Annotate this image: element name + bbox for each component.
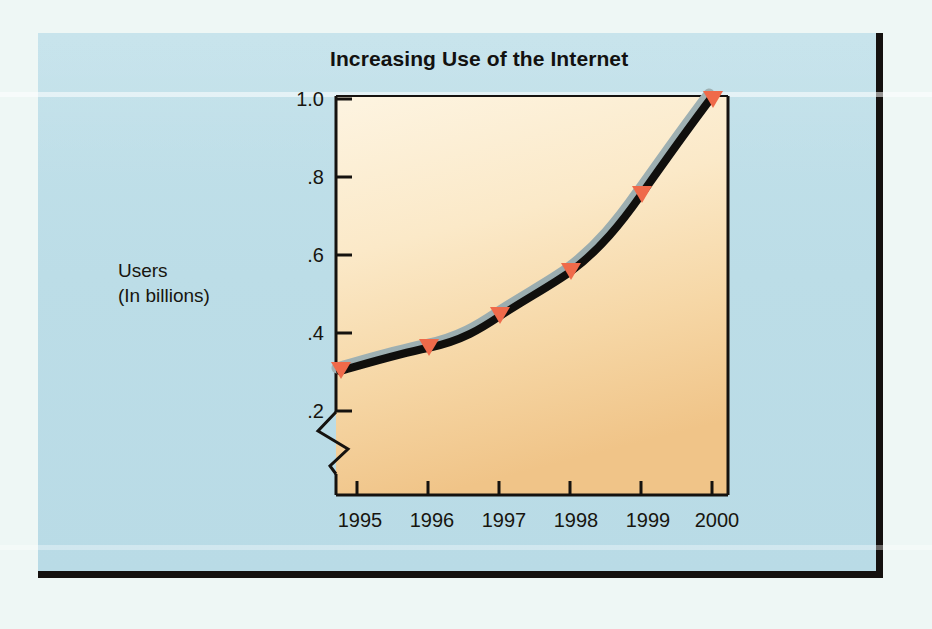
frame-rule-bottom — [38, 571, 883, 578]
frame-rule-right — [876, 33, 883, 578]
y-axis-caption: Users (In billions) — [118, 258, 210, 309]
y-axis-caption-line1: Users — [118, 258, 210, 283]
chart-title: Increasing Use of the Internet — [330, 47, 750, 71]
y-axis-caption-line2: (In billions) — [118, 283, 210, 308]
